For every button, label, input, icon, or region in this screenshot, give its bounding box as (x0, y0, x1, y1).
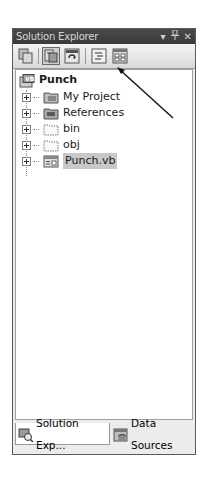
expand-icon[interactable] (22, 125, 31, 134)
project-icon: VB (19, 74, 35, 87)
solution-explorer-icon (18, 427, 34, 441)
svg-text:VB: VB (25, 75, 35, 82)
tree-item-label: References (63, 105, 124, 121)
tab-solution-explorer[interactable]: Solution Exp... (15, 423, 110, 445)
tree-root-project[interactable]: VB Punch (19, 72, 77, 88)
tab-data-sources[interactable]: Data Sources (111, 423, 193, 445)
solution-explorer-panel: Solution Explorer ▾ ✕ (12, 28, 196, 455)
data-sources-icon (113, 427, 129, 441)
tab-label: Data Sources (131, 412, 193, 456)
toolbar (13, 44, 195, 69)
folder-icon (43, 139, 59, 152)
toolbar-separator (38, 48, 39, 64)
tree-branch-line (33, 161, 39, 162)
tree-branch-line (33, 145, 39, 146)
view-designer-button[interactable] (111, 47, 129, 65)
title-bar-controls: ▾ ✕ (161, 29, 192, 44)
toolbar-separator (85, 48, 86, 64)
pin-icon[interactable] (171, 29, 179, 44)
tree-item-label: bin (63, 121, 80, 137)
tree-item-references[interactable]: References (22, 105, 124, 121)
tree-branch-line (33, 97, 39, 98)
refresh-icon (63, 47, 81, 65)
tree-item-label: My Project (63, 89, 120, 105)
references-folder-icon (43, 107, 59, 120)
expand-icon[interactable] (22, 141, 31, 150)
solution-tree[interactable]: VB Punch My Project (15, 69, 193, 420)
dropdown-arrow-icon[interactable]: ▾ (161, 29, 166, 44)
properties-icon (43, 48, 59, 64)
tree-item-obj[interactable]: obj (22, 137, 80, 153)
tree-item-my-project[interactable]: My Project (22, 89, 120, 105)
tree-item-bin[interactable]: bin (22, 121, 80, 137)
view-code-icon (90, 47, 108, 65)
my-project-icon (43, 91, 59, 104)
tab-label: Solution Exp... (36, 412, 109, 456)
tree-item-punch-vb[interactable]: Punch.vb (22, 153, 117, 169)
panel-tab-strip: Solution Exp... Data Sources (13, 420, 195, 454)
properties-button[interactable] (42, 47, 60, 65)
expand-icon[interactable] (22, 109, 31, 118)
show-all-files-button[interactable] (17, 47, 35, 65)
panel-title: Solution Explorer (16, 31, 98, 42)
expand-icon[interactable] (22, 157, 31, 166)
refresh-button[interactable] (63, 47, 81, 65)
tree-root-label: Punch (39, 72, 77, 88)
view-designer-icon (111, 47, 129, 65)
tree-branch-line (33, 113, 39, 114)
expand-icon[interactable] (22, 93, 31, 102)
show-all-files-icon (17, 47, 35, 65)
vb-file-icon (43, 155, 59, 168)
close-icon[interactable]: ✕ (184, 29, 192, 44)
tree-branch-line (33, 129, 39, 130)
title-bar[interactable]: Solution Explorer ▾ ✕ (13, 29, 195, 44)
tree-item-label: obj (63, 137, 80, 153)
view-code-button[interactable] (90, 47, 108, 65)
folder-icon (43, 123, 59, 136)
tree-item-label: Punch.vb (63, 153, 117, 169)
